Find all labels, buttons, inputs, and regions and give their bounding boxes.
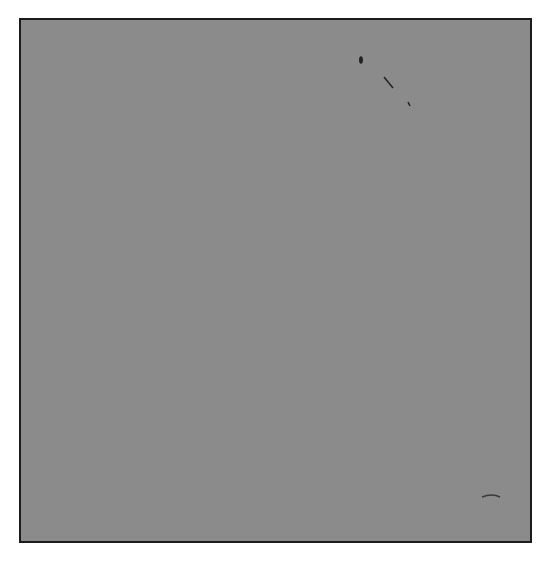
coordinate-grid-figure (0, 0, 543, 561)
grid-background (20, 19, 531, 542)
